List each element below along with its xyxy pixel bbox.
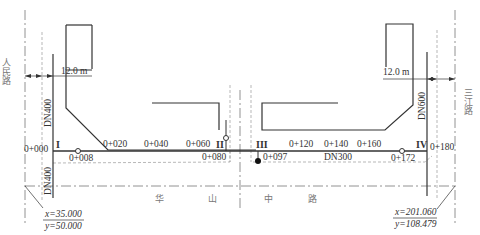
right-dim-arrow-3: [449, 77, 455, 81]
station-140: 0+140: [324, 139, 349, 149]
station-060: 0+060: [186, 139, 211, 149]
left-offset-dimension: 12.0 m: [61, 66, 88, 76]
right-offset-dimension: 12.0 m: [383, 67, 410, 77]
start-coord-x: x=35.000: [44, 209, 82, 219]
node-ii-label: II: [216, 139, 224, 150]
node-iii-label: III: [256, 139, 268, 150]
left-road-char-1: 人民路: [1, 58, 11, 86]
station-000: 0+000: [24, 144, 49, 154]
left-branch-top-size: DN400: [43, 99, 53, 127]
manhole-097[interactable]: [255, 158, 261, 164]
end-coord-x: x=201.060: [394, 207, 437, 217]
station-080: 0+080: [202, 152, 227, 162]
pipeline-plan-diagram: 人民路 三江路 华 山 中 路 12.0 m 12.0 m DN400 DN40…: [0, 0, 480, 235]
right-branch-size: DN600: [417, 92, 427, 120]
manhole-080[interactable]: [224, 136, 229, 141]
right-dim-arrow-2: [431, 77, 437, 81]
center-right-block: [262, 24, 413, 130]
station-160: 0+160: [357, 139, 382, 149]
station-097: 0+097: [263, 152, 288, 162]
main-road-char-4: 路: [308, 193, 317, 204]
station-020: 0+020: [103, 139, 128, 149]
station-120: 0+120: [289, 139, 314, 149]
node-iv-label: IV: [416, 139, 428, 150]
end-coord-leader: [437, 186, 455, 209]
start-coord-y: y=50.000: [44, 221, 82, 231]
center-left-block: [152, 103, 219, 130]
left-dim-arrow-2: [36, 74, 42, 78]
main-road-char-2: 山: [208, 194, 217, 204]
end-coord-y: y=108.479: [394, 219, 437, 229]
station-172: 0+172: [391, 153, 416, 163]
main-road-char-1: 华: [155, 193, 164, 204]
station-180: 0+180: [430, 142, 455, 152]
left-dim-arrow-1: [25, 74, 31, 78]
node-i-label: I: [56, 139, 60, 150]
main-road-char-3: 中: [264, 193, 273, 204]
station-040: 0+040: [144, 139, 169, 149]
station-008: 0+008: [69, 153, 94, 163]
start-coord-leader: [25, 186, 43, 208]
left-dim-arrow-3: [47, 74, 53, 78]
right-road-label: 三江路: [463, 88, 473, 116]
left-branch-bottom-size: DN400: [43, 167, 53, 195]
main-pipe-size: DN300: [324, 152, 352, 162]
